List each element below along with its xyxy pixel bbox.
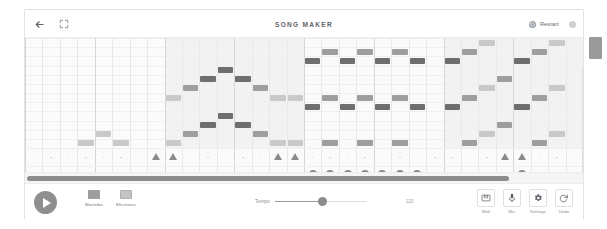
tempo-slider[interactable] [275, 196, 367, 206]
grid-note[interactable] [479, 85, 494, 91]
grid-note[interactable] [166, 95, 181, 101]
grid-note[interactable] [340, 58, 355, 64]
grid-note[interactable] [200, 122, 215, 128]
grid-note[interactable] [532, 95, 547, 101]
midi-button[interactable]: Midi [475, 189, 497, 214]
grid-note[interactable] [96, 131, 111, 137]
percussion-empty-cell[interactable] [556, 157, 558, 159]
grid-note[interactable] [322, 140, 337, 146]
grid-note[interactable] [514, 104, 529, 110]
percussion-empty-cell[interactable] [329, 157, 331, 159]
grid-note[interactable] [462, 49, 477, 55]
percussion-triangle-note[interactable] [291, 153, 299, 160]
percussion-triangle-note[interactable] [501, 153, 509, 160]
percussion-empty-cell[interactable] [434, 157, 436, 159]
grid-scroll-handle[interactable] [589, 37, 602, 59]
percussion-empty-cell[interactable] [103, 157, 105, 159]
grid-note[interactable] [497, 122, 512, 128]
grid-note[interactable] [305, 104, 320, 110]
grid-note[interactable] [392, 140, 407, 146]
percussion-empty-cell[interactable] [120, 157, 122, 159]
grid-note[interactable] [305, 58, 320, 64]
grid-note[interactable] [253, 131, 268, 137]
grid-note[interactable] [462, 140, 477, 146]
grid-note[interactable] [514, 58, 529, 64]
grid-note[interactable] [113, 140, 128, 146]
percussion-empty-cell[interactable] [190, 157, 192, 159]
play-button[interactable] [34, 191, 57, 214]
grid-note[interactable] [497, 76, 512, 82]
percussion-triangle-note[interactable] [274, 153, 282, 160]
grid-note[interactable] [549, 85, 564, 91]
percussion-empty-cell[interactable] [242, 157, 244, 159]
grid-scroll-area[interactable] [25, 38, 583, 183]
percussion-empty-cell[interactable] [364, 157, 366, 159]
back-arrow-icon[interactable] [32, 17, 47, 32]
pitch-grid[interactable] [25, 38, 583, 148]
percussion-empty-cell[interactable] [260, 157, 262, 159]
note-grid[interactable] [25, 38, 583, 183]
percussion-empty-cell[interactable] [33, 157, 35, 159]
percussion-empty-cell[interactable] [539, 157, 541, 159]
grid-note[interactable] [375, 104, 390, 110]
grid-note[interactable] [462, 95, 477, 101]
percussion-empty-cell[interactable] [207, 157, 209, 159]
grid-note[interactable] [218, 67, 233, 73]
grid-note[interactable] [322, 95, 337, 101]
percussion-empty-cell[interactable] [312, 157, 314, 159]
percussion-empty-cell[interactable] [347, 157, 349, 159]
grid-note[interactable] [218, 113, 233, 119]
grid-note[interactable] [166, 140, 181, 146]
grid-note[interactable] [532, 140, 547, 146]
grid-note[interactable] [479, 40, 494, 46]
grid-note[interactable] [532, 49, 547, 55]
grid-note[interactable] [253, 85, 268, 91]
undo-button[interactable]: Undo [553, 189, 575, 214]
grid-note[interactable] [410, 104, 425, 110]
grid-note[interactable] [288, 140, 303, 146]
grid-note[interactable] [78, 140, 93, 146]
grid-note[interactable] [322, 49, 337, 55]
grid-note[interactable] [235, 76, 250, 82]
grid-note[interactable] [288, 95, 303, 101]
grid-note[interactable] [549, 40, 564, 46]
percussion-empty-cell[interactable] [574, 157, 576, 159]
percussion-empty-cell[interactable] [399, 157, 401, 159]
grid-note[interactable] [357, 49, 372, 55]
percussion-triangle-note[interactable] [152, 153, 160, 160]
grid-note[interactable] [357, 140, 372, 146]
percussion-empty-cell[interactable] [382, 157, 384, 159]
circle-icon[interactable] [569, 21, 576, 28]
grid-note[interactable] [479, 131, 494, 137]
playback-progress-bar[interactable] [25, 172, 583, 183]
percussion-empty-cell[interactable] [50, 157, 52, 159]
grid-note[interactable] [549, 131, 564, 137]
percussion-empty-cell[interactable] [68, 157, 70, 159]
grid-note[interactable] [392, 49, 407, 55]
fullscreen-icon[interactable] [56, 17, 71, 32]
restart-button[interactable]: Restart [529, 21, 559, 28]
instrument-selector-electronic[interactable]: Electronic [116, 190, 136, 207]
percussion-empty-cell[interactable] [138, 157, 140, 159]
grid-note[interactable] [200, 76, 215, 82]
percussion-empty-cell[interactable] [85, 157, 87, 159]
percussion-triangle-note[interactable] [169, 153, 177, 160]
grid-note[interactable] [375, 58, 390, 64]
tempo-slider-knob[interactable] [318, 197, 327, 206]
grid-note[interactable] [410, 58, 425, 64]
percussion-empty-cell[interactable] [225, 157, 227, 159]
grid-note[interactable] [270, 140, 285, 146]
grid-note[interactable] [445, 58, 460, 64]
settings-button[interactable]: Settings [527, 189, 549, 214]
percussion-triangle-note[interactable] [518, 153, 526, 160]
grid-note[interactable] [270, 95, 285, 101]
percussion-empty-cell[interactable] [451, 157, 453, 159]
mic-button[interactable]: Mic [501, 189, 523, 214]
grid-note[interactable] [445, 104, 460, 110]
percussion-empty-cell[interactable] [417, 157, 419, 159]
grid-note[interactable] [183, 85, 198, 91]
grid-note[interactable] [340, 104, 355, 110]
grid-note[interactable] [183, 131, 198, 137]
percussion-empty-cell[interactable] [486, 157, 488, 159]
grid-note[interactable] [392, 95, 407, 101]
